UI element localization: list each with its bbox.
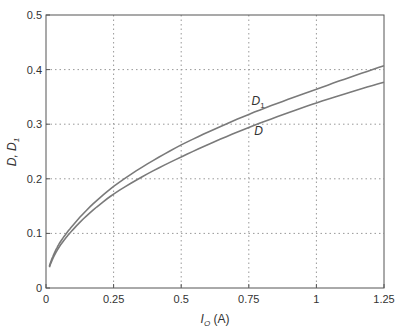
y-tick-label: 0.2 [27, 173, 42, 185]
y-tick-label: 0.1 [27, 227, 42, 239]
y-tick-label: 0 [36, 282, 42, 294]
curve-labels: D1D [252, 94, 266, 138]
y-tick-label: 0.3 [27, 118, 42, 130]
x-tick-label: 1.25 [373, 293, 394, 305]
chart: 00.250.50.7511.25 00.10.20.30.40.5 D1D I… [0, 0, 405, 335]
y-tick-label: 0.5 [27, 9, 42, 21]
x-axis-ticks: 00.250.50.7511.25 [43, 284, 395, 305]
curves [49, 66, 384, 267]
label-d: D [254, 124, 263, 138]
x-tick-label: 0.5 [174, 293, 189, 305]
grid-lines [46, 15, 384, 288]
x-tick-label: 0.75 [238, 293, 259, 305]
x-tick-label: 1 [313, 293, 319, 305]
y-axis-label: D, D1 [5, 138, 21, 166]
label-d1: D1 [252, 94, 266, 110]
plot-frame [46, 15, 384, 288]
x-tick-label: 0.25 [103, 293, 124, 305]
y-axis-ticks: 00.10.20.30.40.5 [27, 9, 50, 294]
y-tick-label: 0.4 [27, 64, 42, 76]
x-axis-label: IO (A) [201, 312, 230, 328]
curve-d1 [49, 66, 384, 266]
curve-d [49, 82, 384, 267]
x-tick-label: 0 [43, 293, 49, 305]
